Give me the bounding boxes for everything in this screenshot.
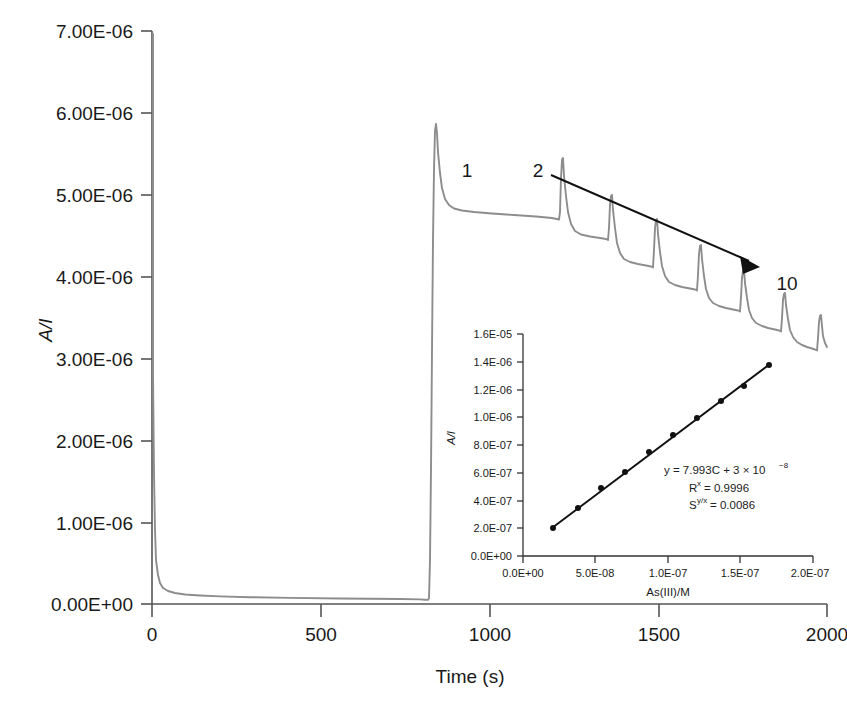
- x-tick-label: 500: [305, 624, 337, 645]
- inset-data-point: [741, 383, 747, 389]
- inset-y-tick-label: 4.0E-07: [473, 495, 512, 507]
- x-tick-label: 1000: [469, 624, 511, 645]
- inset-x-axis: [523, 556, 813, 563]
- inset-y-tick-label: 1.4E-06: [473, 356, 512, 368]
- inset-plot: 1.6E-05 1.4E-06 1.2E-06 1.0E-06 8.0E-07 …: [445, 328, 829, 598]
- r-squared-value: = 0.9996: [704, 482, 749, 494]
- inset-x-tick-label: 1.5E-07: [721, 567, 760, 579]
- inset-y-tick-labels: 1.6E-05 1.4E-06 1.2E-06 1.0E-06 8.0E-07 …: [471, 328, 512, 562]
- main-x-axis-title: Time (s): [436, 666, 505, 687]
- step-label-2: 2: [533, 160, 544, 181]
- inset-data-point: [766, 362, 772, 368]
- inset-data-point: [550, 525, 556, 531]
- figure-container: 7.00E-06 6.00E-06 5.00E-06 4.00E-06 3.00…: [0, 0, 847, 712]
- y-tick-label: 7.00E-06: [56, 21, 133, 42]
- main-curve: [153, 34, 827, 600]
- inset-y-tick-label: 1.6E-05: [473, 328, 512, 340]
- main-x-tick-labels: 0 500 1000 1500 2000: [147, 624, 847, 645]
- inset-data-point: [598, 485, 604, 491]
- y-tick-label: 0.00E+00: [51, 594, 133, 615]
- inset-data-point: [622, 469, 628, 475]
- main-y-tick-labels: 7.00E-06 6.00E-06 5.00E-06 4.00E-06 3.00…: [51, 21, 133, 615]
- inset-y-tick-label: 1.2E-06: [473, 384, 512, 396]
- inset-x-axis-title: As(III)/M: [646, 586, 689, 598]
- inset-data-point: [718, 398, 724, 404]
- inset-data-point: [670, 432, 676, 438]
- s-yx-label: S: [689, 499, 697, 511]
- inset-x-tick-label: 0.0E+00: [502, 567, 543, 579]
- inset-y-tick-label: 6.0E-07: [473, 467, 512, 479]
- inset-data-point: [575, 505, 581, 511]
- inset-y-axis-title: A/I: [445, 430, 457, 446]
- inset-x-tick-label: 2.0E-07: [791, 567, 830, 579]
- x-tick-label: 2000: [806, 624, 847, 645]
- main-x-axis: [152, 604, 827, 617]
- r-squared-superscript: x: [697, 479, 701, 488]
- y-tick-label: 1.00E-06: [56, 513, 133, 534]
- y-tick-label: 6.00E-06: [56, 103, 133, 124]
- inset-x-tick-label: 5.0E-08: [576, 567, 615, 579]
- x-tick-label: 1500: [638, 624, 680, 645]
- inset-data-point: [646, 449, 652, 455]
- y-tick-label: 4.00E-06: [56, 267, 133, 288]
- regression-equation-exponent: −8: [779, 461, 789, 470]
- inset-x-tick-label: 1.0E-07: [649, 567, 688, 579]
- y-tick-label: 2.00E-06: [56, 431, 133, 452]
- inset-y-tick-label: 8.0E-07: [473, 439, 512, 451]
- y-tick-label: 5.00E-06: [56, 185, 133, 206]
- main-y-axis-title: A/I: [35, 318, 56, 343]
- x-tick-label: 0: [147, 624, 158, 645]
- inset-equation-block: y = 7.993C + 3 × 10 −8 R x = 0.9996 S y/…: [664, 461, 789, 511]
- s-yx-value: = 0.0086: [710, 499, 755, 511]
- main-y-axis: [141, 31, 152, 604]
- inset-y-axis: [517, 334, 523, 556]
- regression-equation: y = 7.993C + 3 × 10: [664, 464, 765, 476]
- inset-y-tick-label: 0.0E+00: [471, 550, 512, 562]
- inset-x-tick-labels: 0.0E+00 5.0E-08 1.0E-07 1.5E-07 2.0E-07: [502, 567, 829, 579]
- step-label-1: 1: [462, 160, 473, 181]
- step-label-10: 10: [776, 273, 797, 294]
- y-tick-label: 3.00E-06: [56, 349, 133, 370]
- inset-data-point: [694, 415, 700, 421]
- inset-y-tick-label: 1.0E-06: [473, 411, 512, 423]
- chart-svg: 7.00E-06 6.00E-06 5.00E-06 4.00E-06 3.00…: [0, 0, 847, 712]
- s-yx-superscript: y/x: [697, 496, 707, 505]
- inset-y-tick-label: 2.0E-07: [473, 522, 512, 534]
